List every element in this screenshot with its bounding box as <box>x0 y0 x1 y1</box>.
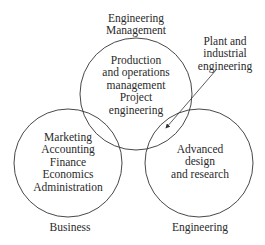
callout-label: Plant and industrial engineering <box>190 35 260 72</box>
engineering-title: Engineering <box>160 221 240 233</box>
engineering-management-title: Engineering Management <box>96 12 176 37</box>
business-title: Business <box>30 221 110 233</box>
engineering-contents: Advanced design and research <box>160 143 240 180</box>
business-contents: Marketing Accounting Finance Economics A… <box>22 131 114 193</box>
engineering-management-contents: Production and operations management Pro… <box>86 54 186 116</box>
